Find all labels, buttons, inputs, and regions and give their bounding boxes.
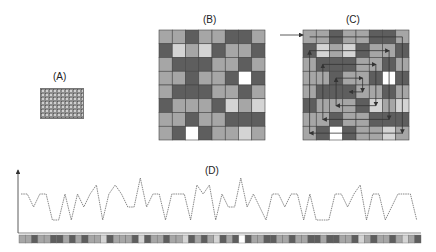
- grid-cell: [199, 99, 212, 113]
- strip-cell: [50, 235, 56, 243]
- strip-cell: [19, 235, 25, 243]
- strip-cell: [245, 235, 251, 243]
- strip-cell: [176, 235, 182, 243]
- grid-cell: [252, 126, 265, 140]
- strip-cell: [308, 235, 314, 243]
- grid-cell: [225, 85, 238, 99]
- grid-cell: [186, 58, 199, 72]
- grid-cell: [212, 126, 225, 140]
- grid-cell: [212, 30, 225, 44]
- grid-cell: [239, 30, 252, 44]
- strip-cell: [195, 235, 201, 243]
- grid-cell: [225, 58, 238, 72]
- grid-cell: [172, 58, 185, 72]
- grid-cell: [212, 85, 225, 99]
- grid-cell: [212, 71, 225, 85]
- strip-cell: [107, 235, 113, 243]
- strip-cell: [76, 235, 82, 243]
- strip-cell: [25, 235, 31, 243]
- strip-cell: [182, 235, 188, 243]
- grid-cell: [212, 58, 225, 72]
- grid-cell: [199, 85, 212, 99]
- grid-cell: [172, 113, 185, 127]
- grid-cell: [186, 126, 199, 140]
- grid-cell: [172, 30, 185, 44]
- color-strip: [19, 235, 421, 243]
- strip-cell: [32, 235, 38, 243]
- intensity-line: [21, 178, 417, 220]
- grid-cell: [212, 113, 225, 127]
- grid-cell: [186, 71, 199, 85]
- strip-cell: [120, 235, 126, 243]
- strip-cell: [189, 235, 195, 243]
- strip-cell: [207, 235, 213, 243]
- strip-cell: [226, 235, 232, 243]
- strip-cell: [94, 235, 100, 243]
- strip-cell: [138, 235, 144, 243]
- strip-cell: [170, 235, 176, 243]
- strip-cell: [383, 235, 389, 243]
- strip-cell: [251, 235, 257, 243]
- grid-cell: [225, 126, 238, 140]
- grid-cell: [225, 44, 238, 58]
- grid-cell: [199, 58, 212, 72]
- grid-cell: [252, 58, 265, 72]
- grid-cell: [172, 44, 185, 58]
- grid-cell: [172, 85, 185, 99]
- strip-cell: [402, 235, 408, 243]
- strip-cell: [57, 235, 63, 243]
- grid-cell: [159, 30, 172, 44]
- strip-cell: [132, 235, 138, 243]
- strip-cell: [339, 235, 345, 243]
- grid-cell: [252, 99, 265, 113]
- grid-cell: [252, 85, 265, 99]
- strip-cell: [371, 235, 377, 243]
- strip-cell: [44, 235, 50, 243]
- strip-cell: [283, 235, 289, 243]
- grid-cell: [239, 126, 252, 140]
- strip-cell: [352, 235, 358, 243]
- grid-cell: [199, 71, 212, 85]
- strip-cell: [415, 235, 421, 243]
- grid-cell: [252, 44, 265, 58]
- grid-cell: [159, 71, 172, 85]
- strip-cell: [302, 235, 308, 243]
- grid-cell: [159, 113, 172, 127]
- grid-cell: [239, 71, 252, 85]
- grid-cell: [239, 85, 252, 99]
- grid-cell: [172, 99, 185, 113]
- strip-cell: [201, 235, 207, 243]
- strip-cell: [277, 235, 283, 243]
- grid-cell: [225, 99, 238, 113]
- grid-cell: [159, 58, 172, 72]
- strip-cell: [239, 235, 245, 243]
- strip-cell: [151, 235, 157, 243]
- strip-cell: [220, 235, 226, 243]
- grid-cell: [186, 30, 199, 44]
- strip-cell: [113, 235, 119, 243]
- strip-cell: [396, 235, 402, 243]
- strip-cell: [358, 235, 364, 243]
- grid-cell: [199, 44, 212, 58]
- strip-cell: [364, 235, 370, 243]
- strip-cell: [314, 235, 320, 243]
- grid-cell: [159, 44, 172, 58]
- grid-cell: [225, 71, 238, 85]
- strip-cell: [233, 235, 239, 243]
- grid-cell: [225, 30, 238, 44]
- strip-cell: [126, 235, 132, 243]
- strip-cell: [295, 235, 301, 243]
- strip-cell: [163, 235, 169, 243]
- strip-cell: [289, 235, 295, 243]
- grid-cell: [172, 126, 185, 140]
- strip-cell: [82, 235, 88, 243]
- strip-cell: [145, 235, 151, 243]
- grid-cell: [252, 113, 265, 127]
- grid-cell: [239, 58, 252, 72]
- strip-cell: [63, 235, 69, 243]
- grid-cell: [172, 71, 185, 85]
- grid-cell: [252, 30, 265, 44]
- grid-cell: [239, 113, 252, 127]
- strip-cell: [346, 235, 352, 243]
- grid-cell: [239, 99, 252, 113]
